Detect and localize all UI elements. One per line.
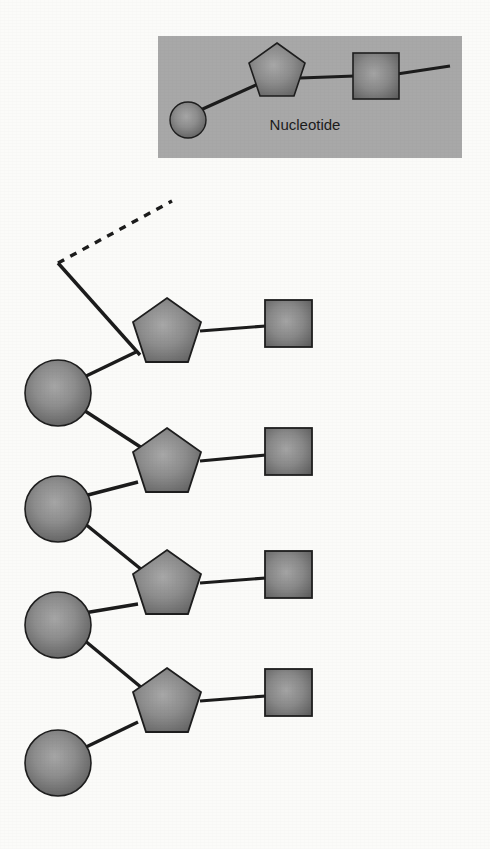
bond-sugar-2-to-base-2 [200,455,266,461]
bond-start-to-sugar-1 [58,263,140,355]
base-square [265,300,312,347]
legend-panel: Nucleotide [158,36,462,158]
bond-sugar-2-to-phosphate-2 [84,482,138,496]
base-square [265,669,312,716]
dashed-continuation-bond [58,201,172,263]
legend-background [158,36,462,158]
phosphate-circle [25,592,91,658]
legend-bond-sugar-base [300,76,355,78]
dna-backbone-diagram: Nucleotide [0,0,490,849]
legend-base-square [353,53,399,99]
legend-phosphate-circle [170,102,206,138]
sugar-pentagon [133,668,201,732]
base-square [265,551,312,598]
base-square [265,428,312,475]
bond-sugar-3-to-phosphate-3 [84,604,138,613]
bond-phosphate-3-to-sugar-4 [84,640,142,688]
bond-sugar-3-to-base-3 [200,578,266,583]
bond-sugar-4-to-base-4 [200,696,266,701]
bond-phosphate-1-to-sugar-2 [82,409,142,448]
bond-sugar-1-to-base-1 [200,326,266,331]
bond-sugar-4-to-phosphate-4 [84,722,138,748]
sugar-pentagon [133,298,201,362]
sugar-pentagon [133,428,201,492]
phosphate-circle [25,476,91,542]
bond-phosphate-2-to-sugar-3 [84,523,142,570]
phosphate-circle [25,730,91,796]
phosphate-circle [25,360,91,426]
bond-sugar-1-to-phosphate-1 [82,352,136,378]
legend-label-nucleotide: Nucleotide [270,116,341,133]
figure-canvas: Nucleotide [0,0,490,849]
strand-group [25,201,312,796]
sugar-pentagon [133,550,201,614]
